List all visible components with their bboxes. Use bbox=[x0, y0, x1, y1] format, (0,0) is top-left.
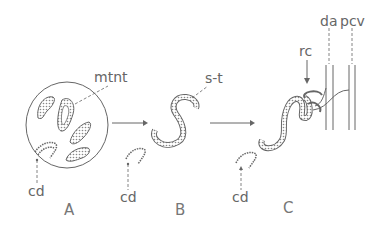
panel-label-a: A bbox=[64, 203, 74, 218]
label-cd-b: cd bbox=[120, 190, 137, 204]
panel-a-diagram bbox=[26, 82, 108, 184]
label-mtnt: mtnt bbox=[94, 70, 128, 84]
mtnt-leader bbox=[75, 86, 108, 104]
diagram-canvas bbox=[0, 0, 385, 227]
tubule bbox=[38, 97, 55, 119]
label-da: da bbox=[320, 14, 337, 28]
arrow-b-to-c bbox=[210, 120, 255, 126]
tubule bbox=[66, 148, 90, 162]
st-leader bbox=[192, 86, 208, 98]
collecting-duct bbox=[126, 148, 145, 164]
label-cd-a: cd bbox=[28, 184, 45, 198]
tubule bbox=[70, 122, 91, 144]
panel-c-diagram bbox=[236, 28, 355, 190]
vessel-connection bbox=[313, 90, 349, 110]
label-cd-c: cd bbox=[232, 190, 249, 204]
collecting-duct bbox=[236, 152, 256, 168]
panel-label-c: C bbox=[283, 201, 293, 216]
panel-b-diagram bbox=[126, 86, 208, 190]
arrow-a-to-b bbox=[112, 120, 148, 126]
label-s-t: s-t bbox=[205, 71, 223, 85]
panel-label-b: B bbox=[175, 203, 185, 218]
label-pcv: pcv bbox=[340, 14, 365, 28]
label-rc: rc bbox=[299, 44, 312, 58]
